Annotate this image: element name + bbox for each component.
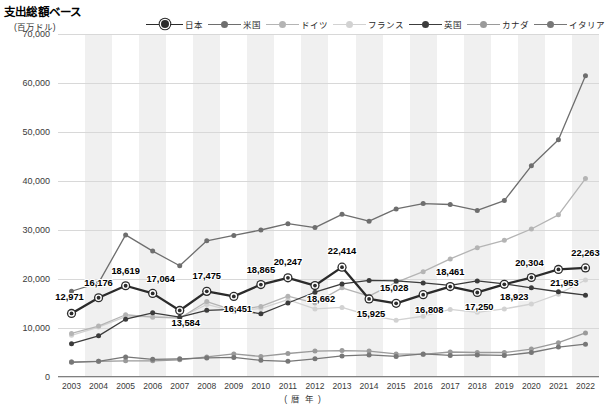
series-marker [340, 348, 345, 353]
series-marker-core [367, 297, 371, 301]
data-label: 13,584 [172, 318, 200, 328]
series-marker-core [151, 291, 155, 295]
series-marker [285, 294, 290, 299]
series-marker [258, 304, 263, 309]
data-label: 21,953 [550, 278, 578, 288]
series-marker [394, 354, 399, 359]
series-marker-core [584, 266, 588, 270]
series-marker-core [232, 294, 236, 298]
series-marker [448, 353, 453, 358]
series-marker [502, 306, 507, 311]
series-marker [340, 353, 345, 358]
data-label: 16,176 [84, 278, 112, 288]
series-line [72, 76, 586, 292]
data-label: 15,028 [380, 283, 408, 293]
series-marker-core [70, 312, 74, 316]
series-marker [367, 219, 372, 224]
x-axis-tick-label: 2022 [565, 381, 605, 391]
data-label: 16,808 [415, 305, 443, 315]
series-marker [583, 73, 588, 78]
series-marker-core [97, 296, 101, 300]
series-marker [312, 356, 317, 361]
data-label: 22,263 [571, 248, 599, 258]
series-line [72, 344, 586, 362]
series-marker [340, 281, 345, 286]
data-label: 12,971 [55, 292, 83, 302]
series-marker [529, 227, 534, 232]
series-marker-core [557, 268, 561, 272]
series-marker [583, 293, 588, 298]
series-marker [69, 331, 74, 336]
series-marker [421, 280, 426, 285]
data-label: 16,451 [224, 304, 252, 314]
plot-area: 12,97116,17618,61917,06413,58417,47516,4… [58, 34, 599, 377]
series-marker [502, 198, 507, 203]
series-marker [421, 201, 426, 206]
series-marker [69, 341, 74, 346]
series-marker [123, 354, 128, 359]
series-marker [421, 351, 426, 356]
data-label: 18,662 [307, 294, 335, 304]
series-marker-core [394, 301, 398, 305]
series-marker-core [313, 284, 317, 288]
data-label: 15,925 [357, 309, 385, 319]
series-marker [123, 312, 128, 317]
series-marker [475, 352, 480, 357]
series-marker-core [259, 283, 263, 287]
series-marker [529, 350, 534, 355]
series-marker [556, 289, 561, 294]
series-marker [150, 249, 155, 254]
series-marker [150, 310, 155, 315]
series-marker [340, 212, 345, 217]
series-marker [150, 357, 155, 362]
data-label: 18,619 [111, 266, 139, 276]
series-marker-core [286, 276, 290, 280]
series-marker [123, 317, 128, 322]
series-marker [448, 256, 453, 261]
data-label: 17,475 [193, 271, 221, 281]
series-marker [394, 318, 399, 323]
series-marker [204, 308, 209, 313]
series-marker [285, 301, 290, 306]
series-lines [58, 34, 599, 377]
series-marker [502, 238, 507, 243]
series-marker [529, 285, 534, 290]
series-marker [475, 208, 480, 213]
series-marker-core [475, 291, 479, 295]
series-marker [258, 228, 263, 233]
data-label: 18,923 [500, 292, 528, 302]
series-marker [475, 245, 480, 250]
series-marker [177, 263, 182, 268]
series-marker [502, 353, 507, 358]
series-marker [421, 269, 426, 274]
series-marker-core [205, 289, 209, 293]
series-marker [583, 330, 588, 335]
series-marker [69, 360, 74, 365]
series-marker-core [448, 285, 452, 289]
series-marker [258, 358, 263, 363]
series-marker [231, 355, 236, 360]
series-marker [231, 233, 236, 238]
data-label: 18,865 [247, 265, 275, 275]
series-marker [394, 206, 399, 211]
series-marker [367, 278, 372, 283]
series-marker [583, 277, 588, 282]
series-marker [448, 202, 453, 207]
series-marker [583, 176, 588, 181]
chart-container: 支出総額ベース (百万ドル) 日本米国ドイツフランス英国カナダイタリア 010,… [0, 0, 607, 407]
series-marker [556, 212, 561, 217]
series-marker [312, 306, 317, 311]
series-marker [340, 305, 345, 310]
series-marker [448, 307, 453, 312]
series-marker [150, 315, 155, 320]
series-marker [529, 163, 534, 168]
series-marker-core [124, 284, 128, 288]
series-marker [204, 299, 209, 304]
series-marker [258, 311, 263, 316]
gridline [58, 377, 599, 378]
series-marker [312, 225, 317, 230]
series-marker [556, 137, 561, 142]
series-marker [556, 340, 561, 345]
series-marker [96, 333, 101, 338]
series-marker-core [178, 309, 182, 313]
